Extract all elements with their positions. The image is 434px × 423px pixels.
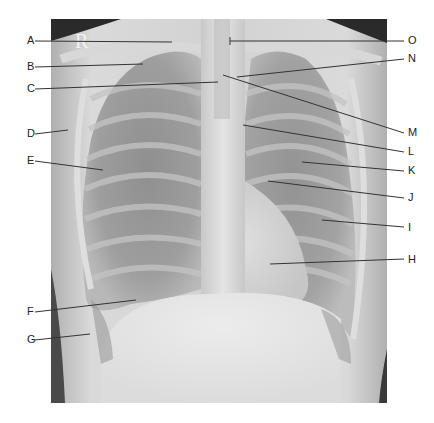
label-f: F — [27, 306, 34, 317]
label-m: M — [408, 127, 417, 138]
label-l: L — [408, 146, 414, 157]
label-j: J — [408, 192, 414, 203]
leader-line-c — [35, 82, 218, 89]
label-o: O — [408, 35, 417, 46]
label-n: N — [408, 53, 416, 64]
leader-line-k — [302, 162, 404, 171]
chest-xray-figure: R ABCDEFGONMLKJIH — [0, 0, 434, 423]
leader-line-i — [322, 220, 404, 227]
leader-line-h — [270, 259, 404, 264]
label-c: C — [27, 83, 35, 94]
label-d: D — [27, 128, 35, 139]
label-k: K — [408, 165, 415, 176]
label-h: H — [408, 254, 416, 265]
leader-line-g — [35, 334, 90, 340]
leader-line-b — [35, 64, 143, 67]
leader-line-d — [35, 130, 68, 134]
leader-line-a — [35, 41, 172, 42]
label-e: E — [27, 155, 34, 166]
label-a: A — [27, 35, 34, 46]
leader-lines — [0, 0, 434, 423]
leader-line-e — [35, 161, 103, 170]
leader-line-j — [268, 181, 404, 198]
label-b: B — [27, 61, 34, 72]
leader-line-n — [237, 59, 404, 77]
label-i: I — [408, 222, 411, 233]
leader-line-m — [223, 75, 404, 133]
leader-line-f — [35, 300, 136, 312]
leader-line-l — [243, 125, 404, 152]
label-g: G — [27, 334, 36, 345]
